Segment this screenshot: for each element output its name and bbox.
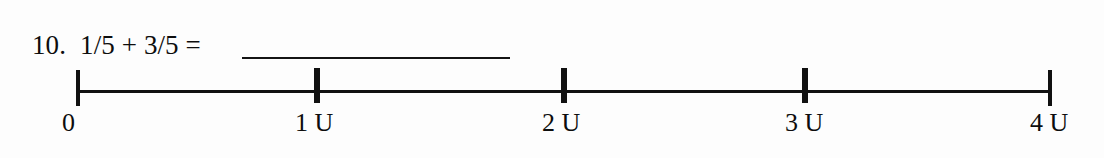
tick-label-0: 0: [62, 108, 75, 138]
tick-label-4: 4 U: [1030, 108, 1068, 138]
tick-label-3: 3 U: [785, 108, 823, 138]
tick-mark-4: [1048, 70, 1052, 106]
tick-label-2: 2 U: [542, 108, 580, 138]
problem-number: 10.: [32, 28, 66, 62]
answer-blank-line[interactable]: [242, 57, 510, 59]
problem-statement: 10. 1/5 + 3/5 =: [32, 28, 201, 62]
tick-mark-2: [561, 68, 567, 103]
tick-label-1: 1 U: [295, 108, 333, 138]
worksheet-problem-page: 10. 1/5 + 3/5 = 01 U2 U3 U4 U: [0, 0, 1104, 158]
tick-mark-3: [802, 68, 808, 103]
number-line: 01 U2 U3 U4 U: [0, 0, 1104, 158]
number-line-axis: [78, 90, 1051, 93]
tick-mark-1: [314, 68, 320, 103]
tick-mark-0: [76, 70, 80, 106]
problem-expression: 1/5 + 3/5 =: [80, 28, 201, 62]
